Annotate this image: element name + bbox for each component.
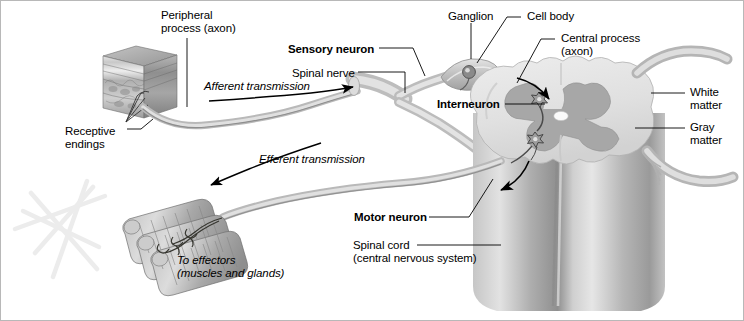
background-watermark <box>15 181 105 277</box>
central-canal <box>554 111 568 120</box>
label-motor-neuron: Motor neuron <box>354 211 427 224</box>
label-interneuron: Interneuron <box>437 98 500 111</box>
skin-block <box>103 46 177 122</box>
reflex-arc-figure: Peripheral process (axon) Sensory neuron… <box>0 0 744 321</box>
label-afferent-transmission: Afferent transmission <box>204 80 310 93</box>
label-central-process: Central process (axon) <box>561 32 640 58</box>
label-spinal-cord: Spinal cord (central nervous system) <box>353 239 477 265</box>
label-to-effectors: To effectors (muscles and glands) <box>177 254 284 280</box>
label-cell-body: Cell body <box>527 10 574 23</box>
label-receptive-endings: Receptive endings <box>65 125 115 151</box>
label-spinal-nerve: Spinal nerve <box>292 67 355 80</box>
label-ganglion: Ganglion <box>448 10 493 23</box>
label-sensory-neuron: Sensory neuron <box>288 43 374 56</box>
label-white-matter: White matter <box>690 86 722 112</box>
label-efferent-transmission: Efferent transmission <box>259 153 365 166</box>
spinal-cord <box>470 56 665 311</box>
label-gray-matter: Gray matter <box>690 121 722 147</box>
label-peripheral-process: Peripheral process (axon) <box>161 9 236 35</box>
